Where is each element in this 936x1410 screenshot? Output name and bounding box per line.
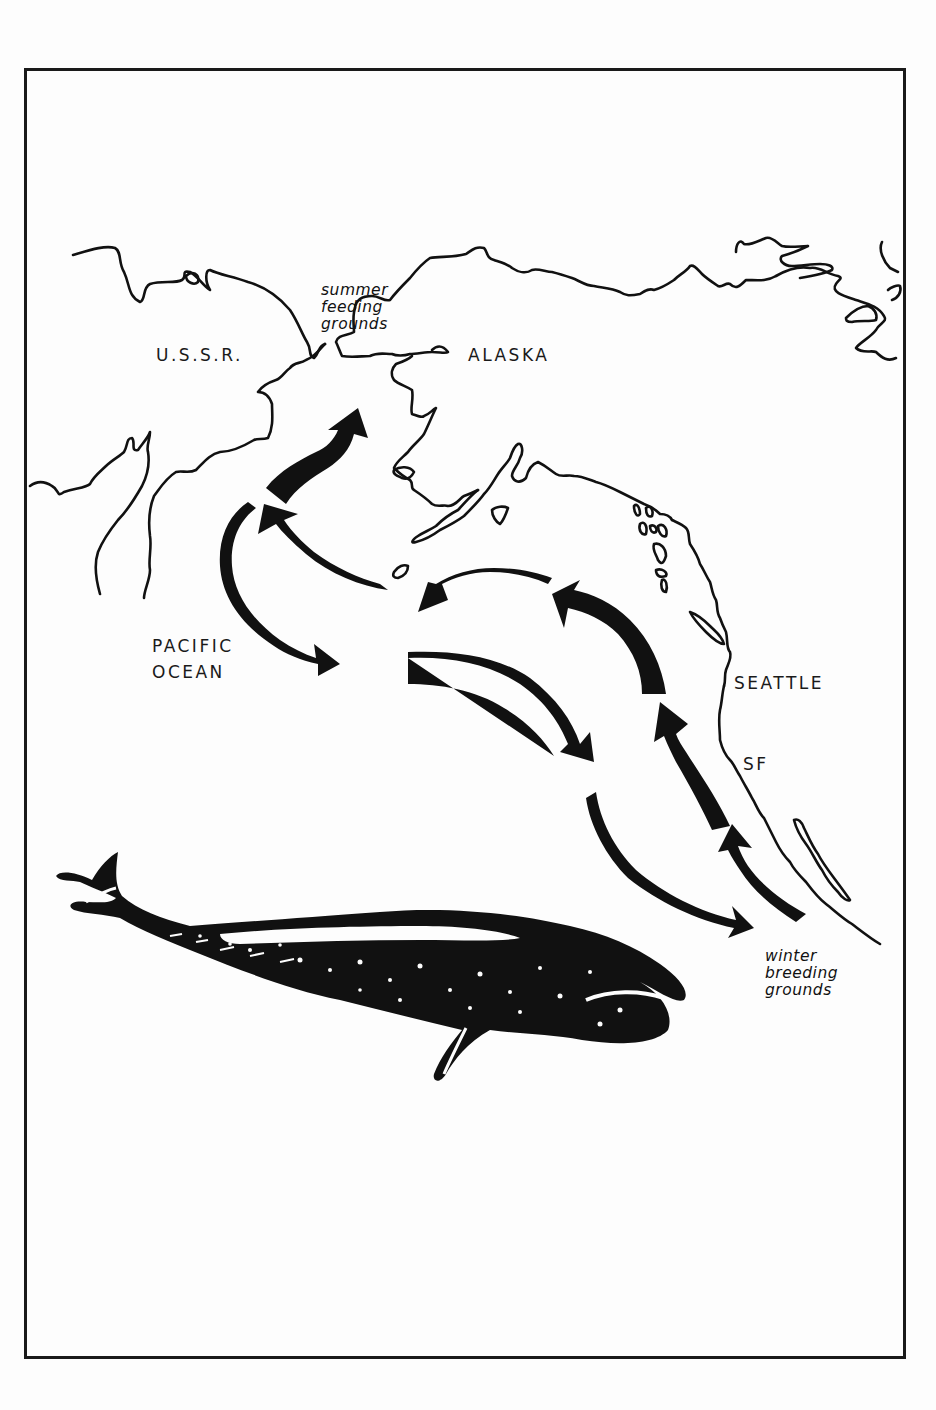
label-winter-line3: grounds — [765, 981, 832, 999]
kamchatka-coast — [30, 432, 150, 594]
label-pacific: PACIFIC — [152, 636, 234, 656]
label-summer-feeding-grounds: summer feeding grounds — [321, 282, 388, 333]
us-west-coast — [719, 686, 880, 944]
label-winter-line1: winter — [765, 947, 817, 965]
baja-peninsula — [794, 819, 850, 900]
panhandle-island-5 — [658, 525, 667, 536]
label-winter-line2: breeding — [765, 964, 838, 982]
route-arrow-north-2 — [258, 504, 388, 590]
bc-coast — [672, 520, 731, 686]
panhandle-island-6 — [653, 544, 666, 563]
canada-island-ne — [881, 242, 898, 272]
canada-arctic-coast — [776, 267, 896, 359]
whale-body — [56, 852, 686, 1081]
gray-whale-illustration — [56, 852, 686, 1081]
canada-island-ne2 — [888, 285, 901, 300]
route-arrow-north-4 — [552, 580, 666, 694]
canada-lake — [846, 306, 877, 322]
panhandle-island-4 — [650, 525, 657, 532]
route-arrow-south-3 — [586, 792, 754, 938]
label-alaska: ALASKA — [468, 345, 549, 365]
label-winter-breeding-grounds: winter breeding grounds — [765, 948, 838, 999]
aleutian-island-1 — [393, 565, 408, 578]
route-arrow-north-6 — [718, 824, 806, 922]
label-seattle: SEATTLE — [734, 673, 824, 693]
label-summer-line1: summer — [321, 281, 388, 299]
alaska-peninsula — [412, 444, 672, 543]
label-ocean: OCEAN — [152, 662, 225, 682]
label-ussr: U.S.S.R. — [156, 345, 243, 365]
alaska-north-coast — [355, 247, 776, 308]
panhandle-island-2 — [646, 507, 653, 517]
kodiak-island — [492, 507, 508, 524]
map-drawing — [0, 0, 936, 1410]
label-summer-line3: grounds — [321, 315, 388, 333]
route-arrow-north-1 — [266, 408, 368, 504]
label-sf: SF — [743, 754, 769, 774]
route-arrow-south-2 — [408, 652, 594, 762]
map-page: U.S.S.R. ALASKA PACIFIC OCEAN SEATTLE SF… — [0, 0, 936, 1410]
panhandle-island-7 — [656, 569, 666, 576]
alaska-west-coast — [392, 356, 478, 506]
label-summer-line2: feeding — [321, 298, 383, 316]
panhandle-island-3 — [639, 523, 646, 535]
ussr-coastline — [73, 247, 325, 358]
panhandle-island-8 — [661, 580, 667, 592]
panhandle-island-1 — [634, 505, 640, 516]
route-arrow-north-3 — [418, 568, 552, 612]
